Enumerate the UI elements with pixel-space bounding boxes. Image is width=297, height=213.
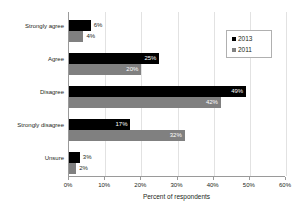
bar-group: 17%32% [69,116,285,149]
legend-swatch-icon [232,37,236,41]
bar-value-label: 3% [83,152,92,163]
y-axis-category-labels: Strongly agreeAgreeDisagreeStrongly disa… [0,12,68,177]
x-tick-label: 0% [64,181,73,189]
bar-2011: 42% [69,97,221,108]
x-tick-mark [140,177,141,180]
x-tick-label: 20% [134,181,146,189]
y-axis-label: Unsure [0,154,64,162]
x-tick-label: 50% [243,181,255,189]
bar-value-label: 49% [231,86,243,97]
legend-item-2011: 2011 [232,46,252,54]
bar-value-label: 4% [86,31,95,42]
y-axis-label: Agree [0,55,64,63]
x-tick-mark [104,177,105,180]
bar-2013: 25% [69,53,159,64]
bar-value-label: 42% [206,97,218,108]
bar-value-label: 17% [115,119,127,130]
x-tick-mark [68,177,69,180]
bar-2013: 17% [69,119,130,130]
x-tick-mark [213,177,214,180]
x-tick-mark [177,177,178,180]
x-axis-title: Percent of respondents [68,192,285,201]
bar-2011: 2% [69,163,76,174]
bar-2013: 49% [69,86,246,97]
y-axis-label: Disagree [0,88,64,96]
bar-group: 49%42% [69,83,285,116]
bar-value-label: 20% [126,64,138,75]
x-tick-label: 30% [170,181,182,189]
legend-item-2013: 2013 [232,35,252,43]
y-axis-label: Strongly disagree [0,121,64,129]
x-axis-ticks: 0%10%20%30%40%50%60% [68,177,285,191]
legend-label: 2013 [238,35,252,43]
legend-label: 2011 [238,46,252,54]
bar-2013: 6% [69,20,91,31]
gridline [286,12,287,176]
chart-legend: 2013 2011 [226,30,272,58]
bar-2011: 32% [69,130,185,141]
x-tick-label: 40% [207,181,219,189]
x-tick-label: 60% [279,181,291,189]
x-tick-mark [285,177,286,180]
bar-2013: 3% [69,152,80,163]
x-tick-mark [249,177,250,180]
bar-2011: 20% [69,64,141,75]
bar-value-label: 2% [79,163,88,174]
x-tick-label: 10% [98,181,110,189]
y-axis-label: Strongly agree [0,22,64,30]
bar-value-label: 25% [144,53,156,64]
bar-value-label: 32% [170,130,182,141]
bar-value-label: 6% [94,20,103,31]
legend-swatch-icon [232,48,236,52]
bar-chart: Strongly agreeAgreeDisagreeStrongly disa… [0,0,297,213]
bar-2011: 4% [69,31,83,42]
